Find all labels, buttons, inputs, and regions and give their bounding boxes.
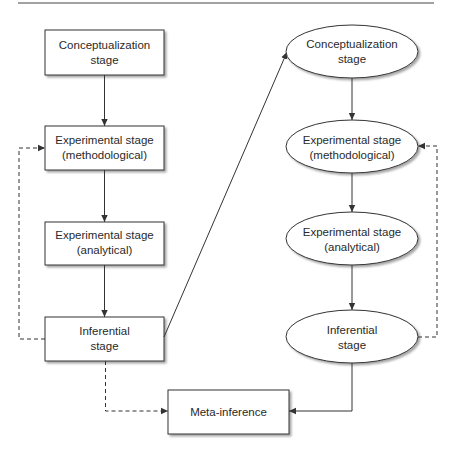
right-ellipse-inferential: Inferential stage xyxy=(286,310,418,363)
left-box-inferential-line2: stage xyxy=(90,340,118,352)
right-ellipse-analytical-line2: (analytical) xyxy=(324,241,380,253)
right-ellipse-conceptualization: Conceptualization stage xyxy=(286,25,418,78)
right-ellipse-experimental-analytical: Experimental stage (analytical) xyxy=(286,212,418,265)
right-ellipse-conceptualization-line1: Conceptualization xyxy=(306,38,397,50)
right-ellipse-methodological-line1: Experimental stage xyxy=(303,134,401,146)
left-box-methodological-line1: Experimental stage xyxy=(55,134,153,146)
left-box-conceptualization-line2: stage xyxy=(90,54,118,66)
right-ellipse-inferential-line2: stage xyxy=(338,339,366,351)
right-ellipse-inferential-line1: Inferential xyxy=(327,324,378,336)
arrow-left-inferential-to-right-conceptualization xyxy=(164,52,287,337)
dashed-arrow-left-to-meta xyxy=(106,361,169,411)
left-box-analytical-line2: (analytical) xyxy=(77,244,133,256)
left-box-inferential: Inferential stage xyxy=(45,317,164,361)
right-ellipse-experimental-methodological: Experimental stage (methodological) xyxy=(286,120,418,173)
right-ellipse-analytical-line1: Experimental stage xyxy=(303,226,401,238)
right-ellipse-conceptualization-line2: stage xyxy=(338,53,366,65)
left-box-methodological-line2: (methodological) xyxy=(62,149,147,161)
dashed-feedback-left xyxy=(19,148,45,339)
left-box-conceptualization-line1: Conceptualization xyxy=(59,39,150,51)
right-ellipse-methodological-line2: (methodological) xyxy=(309,149,394,161)
arrow-right-to-meta xyxy=(289,363,352,411)
left-box-analytical-line1: Experimental stage xyxy=(55,229,153,241)
dashed-feedback-right xyxy=(418,146,437,337)
left-box-inferential-line1: Inferential xyxy=(79,325,130,337)
meta-inference-box: Meta-inference xyxy=(168,390,289,434)
left-box-conceptualization: Conceptualization stage xyxy=(45,30,164,75)
meta-inference-label: Meta-inference xyxy=(190,406,267,418)
mixed-methods-diagram: Conceptualization stage Experimental sta… xyxy=(0,0,454,451)
left-box-experimental-analytical: Experimental stage (analytical) xyxy=(45,222,164,265)
left-box-experimental-methodological: Experimental stage (methodological) xyxy=(45,126,164,170)
